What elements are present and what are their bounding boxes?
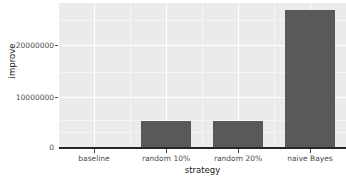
y-tick-mark-20000000 (55, 45, 58, 46)
gridline-minor-v-2 (202, 3, 203, 147)
bar-random-10 (141, 121, 191, 147)
bar-naive-bayes (285, 10, 335, 147)
bar-random-20 (213, 121, 263, 147)
x-tick-mark-baseline (94, 149, 95, 153)
gridline-minor-v-3 (274, 3, 275, 147)
bar-chart: improve 20000000 10000000 0 basel (0, 0, 346, 178)
x-axis-title: strategy (59, 165, 346, 175)
plot-panel (59, 3, 346, 147)
y-axis-title: improve (7, 31, 17, 91)
x-tick-label-naive-bayes: naive Bayes (287, 154, 333, 163)
gridline-minor-v-1 (130, 3, 131, 147)
x-tick-label-random-10: random 10% (142, 154, 190, 163)
x-tick-mark-random-10 (166, 149, 167, 153)
gridline-major-v-baseline (94, 3, 95, 147)
x-tick-mark-random-20 (238, 149, 239, 153)
y-tick-mark-10000000 (55, 97, 58, 98)
y-tick-label-20000000: 20000000 (0, 41, 54, 50)
x-tick-label-baseline: baseline (78, 154, 109, 163)
y-tick-label-10000000: 10000000 (0, 93, 54, 102)
x-tick-mark-naive-bayes (310, 149, 311, 153)
x-axis-line (59, 147, 346, 149)
x-tick-label-random-20: random 20% (214, 154, 262, 163)
y-tick-label-0: 0 (0, 143, 54, 152)
